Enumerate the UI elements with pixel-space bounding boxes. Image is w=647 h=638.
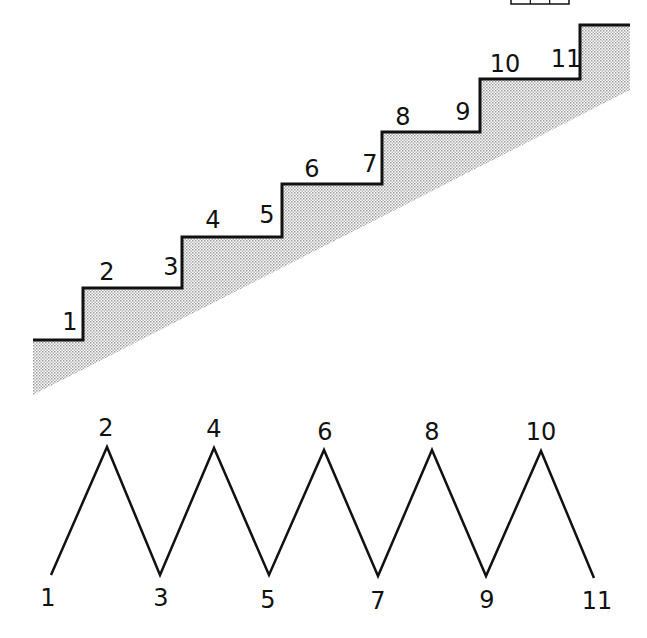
zigzag-label-8: 8 [424,418,439,446]
stair-label-4: 4 [205,206,220,234]
zigzag-label-9: 9 [479,586,494,614]
zigzag-label-10: 10 [526,418,557,446]
zigzag-label-5: 5 [260,586,275,614]
staircase-zigzag-diagram: 1234567891011 1234567891011 [0,0,647,638]
zigzag-label-3: 3 [153,584,168,612]
zigzag-label-4: 4 [206,415,221,443]
stair-label-8: 8 [395,103,410,131]
zigzag-figure: 1234567891011 [40,414,612,615]
zigzag-label-2: 2 [98,414,113,442]
staircase-figure: 1234567891011 [33,25,630,395]
zigzag-label-1: 1 [40,584,55,612]
corner-box-fragment [511,0,569,4]
zigzag-line [51,447,594,578]
stair-label-11: 11 [551,45,582,73]
zigzag-label-6: 6 [317,418,332,446]
zigzag-label-7: 7 [370,587,385,615]
zigzag-label-11: 11 [582,587,613,615]
stair-label-3: 3 [163,253,178,281]
stair-label-9: 9 [455,98,470,126]
stair-label-1: 1 [62,308,77,336]
stair-label-6: 6 [304,155,319,183]
stair-label-2: 2 [99,258,114,286]
stair-label-7: 7 [362,150,377,178]
zigzag-point-labels: 1234567891011 [40,414,612,615]
stair-label-5: 5 [259,201,274,229]
stair-label-10: 10 [490,50,521,78]
